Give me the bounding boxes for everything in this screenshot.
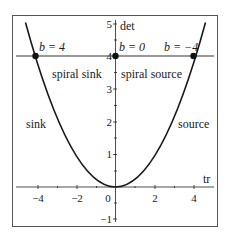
x-tick-label: 4 bbox=[191, 192, 197, 204]
point-b-4 bbox=[32, 53, 38, 59]
y-tick-label: 5 bbox=[107, 18, 113, 30]
region-spiral-sink: spiral sink bbox=[52, 67, 102, 81]
x-tick-label: −2 bbox=[71, 192, 83, 204]
region-spiral-source: spiral source bbox=[121, 67, 182, 81]
y-tick-label: 3 bbox=[107, 83, 113, 95]
x-axis-label: tr bbox=[203, 172, 210, 186]
region-source: source bbox=[178, 117, 209, 131]
y-axis-label: det bbox=[120, 19, 135, 33]
point-label-b-neg4: b = −4 bbox=[164, 40, 198, 54]
x-tick-label: 2 bbox=[152, 192, 158, 204]
point-b-0 bbox=[112, 53, 118, 59]
x-tick-label: 0 bbox=[105, 192, 111, 204]
trace-determinant-diagram: −4 −2 0 2 4 −1 1 2 3 4 5 det tr b = 4 b … bbox=[0, 0, 230, 237]
y-tick-label: 2 bbox=[107, 116, 113, 128]
x-tick-label: −4 bbox=[32, 192, 44, 204]
point-label-b-4: b = 4 bbox=[39, 40, 65, 54]
y-tick-label: 1 bbox=[107, 148, 113, 160]
y-tick-label: −1 bbox=[100, 213, 112, 225]
point-label-b-0: b = 0 bbox=[119, 40, 145, 54]
region-sink: sink bbox=[26, 117, 46, 131]
